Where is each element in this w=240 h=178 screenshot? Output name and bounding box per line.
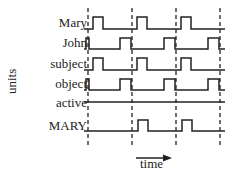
signal-mary (84, 17, 225, 29)
x-axis-label: time (140, 156, 163, 172)
timing-diagram (0, 0, 240, 178)
signal-mary-caps (84, 120, 225, 131)
signal-object (84, 79, 225, 90)
signal-subject (84, 58, 225, 70)
signal-john (84, 38, 225, 49)
